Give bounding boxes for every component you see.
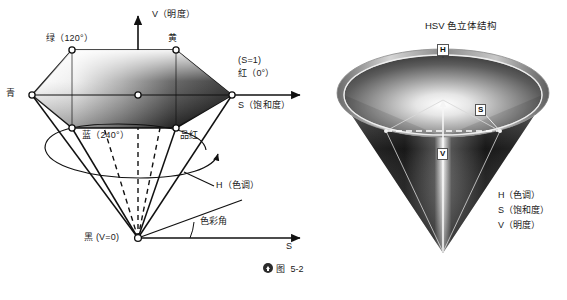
caption-number: 5-2 bbox=[290, 264, 303, 274]
hue-label: H（色调） bbox=[216, 180, 260, 191]
hue-angle-label: 色彩角 bbox=[200, 216, 228, 227]
hue-angle-arc bbox=[190, 222, 194, 238]
vertex-label-yellow: 黄 bbox=[168, 33, 177, 44]
cone-hidden-edges bbox=[104, 128, 160, 238]
v-axis-label: V（明度） bbox=[152, 9, 195, 20]
legend-item-s: S（饱和度） bbox=[498, 203, 549, 218]
vertex-label-cyan: 青 bbox=[6, 88, 15, 99]
marker-s: S bbox=[475, 104, 486, 116]
figure-container: V（明度） 绿（120°） 黄 (S=1) 红（0°） S（饱和度） 青 蓝（2… bbox=[0, 0, 567, 300]
black-vertex-label: 黑 (V=0) bbox=[84, 232, 119, 243]
hue-leader-line bbox=[184, 172, 214, 186]
legend-item-h: H（色调） bbox=[498, 188, 549, 203]
vertex-label-red: 红（0°） bbox=[238, 68, 275, 79]
right-legend: H（色调） S（饱和度） V（明度） bbox=[498, 188, 549, 233]
vertex-label-magenta: 品红 bbox=[180, 130, 198, 141]
vertex-label-green: 绿（120°） bbox=[46, 33, 93, 44]
right-diagram-title: HSV 色立体结构 bbox=[425, 18, 497, 32]
hexagon-shade-overlay bbox=[32, 50, 232, 128]
s-axis-label: S（饱和度） bbox=[238, 100, 290, 111]
left-diagram: V（明度） 绿（120°） 黄 (S=1) 红（0°） S（饱和度） 青 蓝（2… bbox=[0, 0, 320, 270]
circled-up-arrow-icon bbox=[263, 263, 273, 273]
hue-rotation-arc-front bbox=[45, 148, 218, 178]
marker-h: H bbox=[437, 44, 449, 56]
caption-book-label: 图 bbox=[276, 264, 285, 274]
marker-v: V bbox=[437, 148, 448, 160]
s-axis-short-label: S bbox=[286, 241, 292, 252]
legend-item-v: V（明度） bbox=[498, 218, 549, 233]
saturation-max-label: (S=1) bbox=[238, 55, 261, 66]
right-diagram: HSV 色立体结构 bbox=[320, 0, 567, 270]
vertex-label-blue: 蓝（240°） bbox=[82, 130, 129, 141]
figure-caption: 图5-2 bbox=[0, 262, 567, 275]
